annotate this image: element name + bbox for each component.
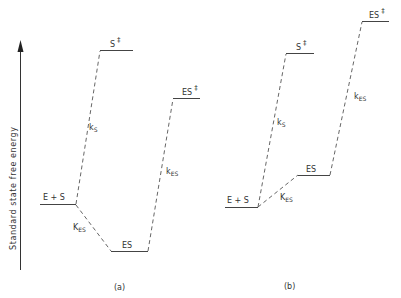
rate-label-kes-binding: KES — [73, 223, 86, 233]
free-energy-diagram: Standard state free energy E + S S‡ ES E… — [0, 0, 401, 298]
rate-label-kes-catalysis: kES — [166, 167, 178, 177]
rate-label-kes-catalysis: kES — [354, 92, 366, 102]
panel-b: E + S S‡ ES ES‡ kS KES kES (b) — [225, 7, 389, 291]
level-label-s-transition: S‡ — [296, 39, 307, 52]
level-label-es-transition: ES‡ — [182, 84, 198, 97]
rate-label-ks: kS — [89, 123, 98, 133]
panel-caption-b: (b) — [284, 282, 295, 291]
level-label-s-transition: S‡ — [110, 36, 121, 49]
panel-a: E + S S‡ ES ES‡ kS KES kES (a) — [40, 36, 200, 292]
energy-axis: Standard state free energy — [9, 40, 24, 270]
level-label-es-transition: ES‡ — [369, 7, 385, 20]
rate-label-kes-binding: KES — [280, 193, 293, 203]
axis-arrow-icon — [18, 40, 24, 52]
level-label-es: ES — [122, 241, 132, 250]
panel-caption-a: (a) — [114, 283, 125, 292]
rate-label-ks: kS — [277, 118, 286, 128]
level-label-es: ES — [306, 165, 316, 174]
transition-e-plus-s-to-s-transition — [258, 54, 286, 207]
axis-label: Standard state free energy — [9, 126, 18, 250]
level-label-e-plus-s: E + S — [43, 193, 65, 202]
level-label-e-plus-s: E + S — [227, 196, 249, 205]
